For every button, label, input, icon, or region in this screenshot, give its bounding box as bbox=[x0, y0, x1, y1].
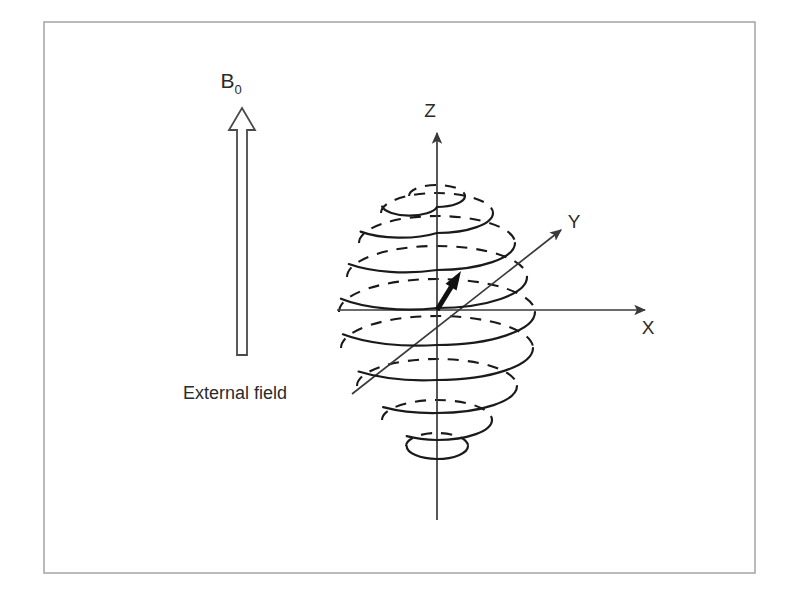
magnetization-vector bbox=[437, 271, 461, 310]
external-field-label-subscript: 0 bbox=[234, 82, 241, 97]
x-axis-label: X bbox=[642, 317, 655, 338]
magnetization-vector-shaft bbox=[437, 284, 453, 310]
external-field-arrow bbox=[229, 108, 255, 355]
spiral-front-arc bbox=[349, 243, 515, 272]
axis-labels: ZXY bbox=[424, 100, 654, 338]
spiral-front-arc bbox=[383, 386, 517, 413]
external-field-label-b: B bbox=[220, 69, 234, 92]
y-axis bbox=[352, 230, 561, 394]
coordinate-axes bbox=[337, 133, 645, 520]
spiral-front-arc bbox=[359, 348, 533, 380]
external-field-group: B0 External field bbox=[183, 69, 287, 403]
figure-border bbox=[44, 22, 755, 573]
external-field-caption: External field bbox=[183, 383, 287, 403]
z-axis-label: Z bbox=[424, 100, 436, 121]
precession-diagram: B0 External field ZXY bbox=[0, 0, 790, 599]
y-axis-label: Y bbox=[568, 211, 581, 232]
spiral-front-arc bbox=[341, 277, 527, 310]
external-field-label: B0 bbox=[220, 69, 241, 97]
spiral-front-arc bbox=[407, 420, 492, 440]
figure-root: B0 External field ZXY bbox=[0, 0, 790, 599]
